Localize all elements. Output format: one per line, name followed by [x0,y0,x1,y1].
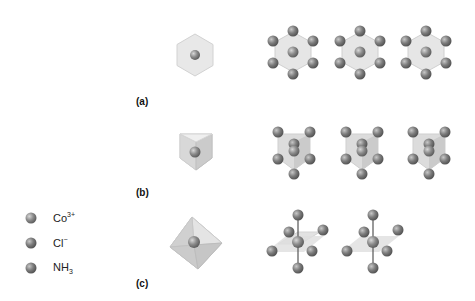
complexes-row-c [260,206,420,276]
complex-b3 [408,127,451,180]
complex-a3 [401,26,452,80]
complex-c1 [266,210,329,274]
ammonia-atom-icon [25,262,37,274]
hexagon-polyhedron-a [175,33,215,77]
prism-polyhedron-b [178,130,214,172]
complexes-row-b [270,124,475,186]
panel-label-c: (c) [136,278,148,289]
panel-label-a: (a) [136,96,148,107]
complex-b2 [341,127,384,180]
complex-a2 [335,26,386,80]
octahedron-polyhedron-c [168,215,226,271]
chloride-atom-icon [25,237,37,249]
complex-a1 [268,26,319,80]
legend-item-chloride: Cl− [53,236,67,249]
panel-label-b: (b) [136,187,149,198]
legend-item-ammonia: NH3 [53,261,73,275]
complex-b1 [273,127,316,180]
legend-item-cobalt: Co3+ [53,211,75,224]
complexes-row-a [265,22,475,92]
cobalt-atom-icon [25,212,37,224]
complex-c2 [341,210,404,274]
